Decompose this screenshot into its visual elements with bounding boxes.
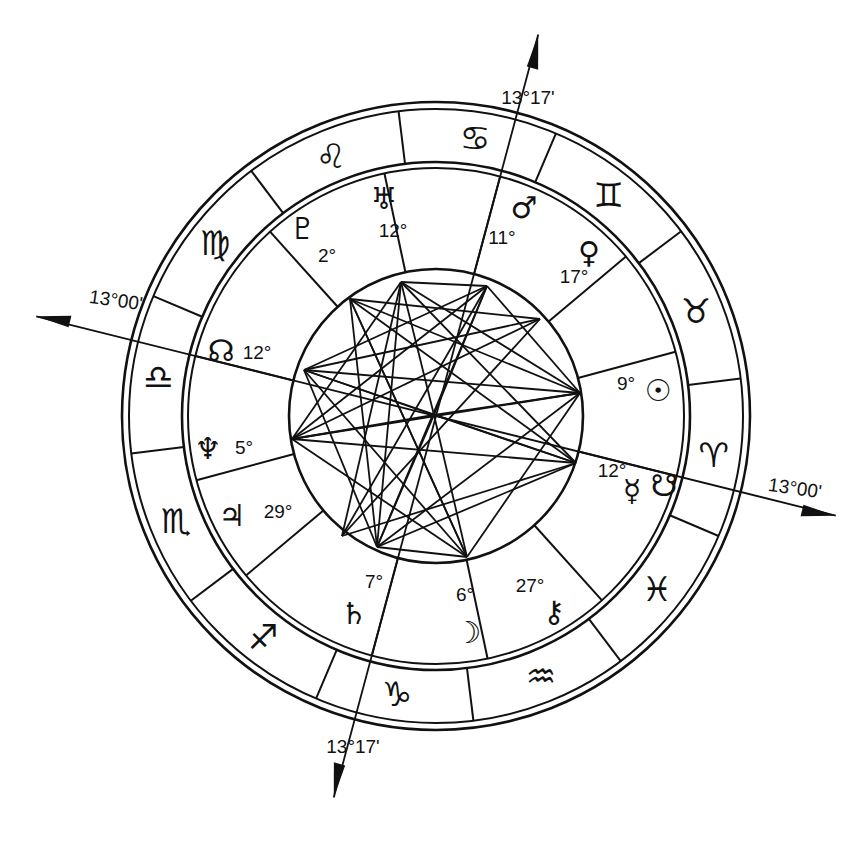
aspect-grid bbox=[292, 282, 580, 557]
sign-divider bbox=[467, 668, 473, 721]
aspect-line bbox=[401, 282, 487, 286]
neptune-degree: 5° bbox=[235, 437, 253, 458]
neptune-icon: ♆ bbox=[195, 431, 222, 466]
aspect-line bbox=[434, 415, 576, 463]
jupiter-icon: ♃ bbox=[219, 498, 246, 533]
sun-icon: ☉ bbox=[645, 373, 672, 408]
sign-divider bbox=[316, 650, 337, 699]
aspect-line bbox=[434, 415, 467, 557]
aspect-line bbox=[350, 299, 576, 463]
imum-coeli-arrow-icon bbox=[334, 762, 345, 797]
pluto-degree: 2° bbox=[318, 245, 336, 266]
moon-degree: 6° bbox=[456, 584, 474, 605]
north-node-degree: 12° bbox=[243, 342, 272, 363]
chart-axes: 13°00'13°00'13°17'13°17' bbox=[36, 34, 836, 797]
jupiter-degree: 29° bbox=[264, 501, 293, 522]
sign-divider bbox=[589, 619, 621, 661]
libra-sign-icon: ♎ bbox=[143, 357, 173, 397]
sun-degree: 9° bbox=[617, 373, 635, 394]
midheaven-label: 13°17' bbox=[501, 87, 555, 108]
uranus-icon: ♅ bbox=[371, 181, 398, 216]
capricorn-sign-icon: ♑ bbox=[382, 674, 412, 714]
descendant-label: 13°00' bbox=[767, 474, 823, 502]
ascendant-arrow-icon bbox=[36, 316, 71, 327]
chiron-degree: 27° bbox=[516, 575, 545, 596]
sign-divider bbox=[688, 379, 741, 385]
aspect-line bbox=[304, 370, 580, 393]
venus-icon: ♀ bbox=[578, 235, 600, 270]
mars-icon: ♂ bbox=[511, 190, 538, 225]
sign-divider bbox=[153, 296, 202, 317]
mars-degree: 11° bbox=[488, 227, 515, 248]
sign-divider bbox=[191, 569, 233, 601]
aspect-line bbox=[487, 286, 580, 393]
sign-divider bbox=[535, 133, 556, 182]
aspect-line bbox=[467, 393, 580, 557]
scorpio-sign-icon: ♏ bbox=[161, 501, 191, 541]
house-cusp-line bbox=[534, 525, 602, 600]
pluto-icon: ♇ bbox=[290, 211, 317, 246]
moon-icon: ☽ bbox=[455, 615, 482, 650]
cancer-sign-icon: ♋ bbox=[460, 118, 490, 158]
venus-degree: 17° bbox=[560, 266, 589, 287]
sign-divider bbox=[639, 231, 681, 263]
virgo-sign-icon: ♍ bbox=[200, 223, 230, 263]
meridian-axis bbox=[334, 34, 538, 797]
aspect-line bbox=[304, 370, 377, 547]
aspect-line bbox=[292, 439, 576, 463]
saturn-icon: ♄ bbox=[341, 596, 368, 631]
natal-chart: ♈♉♊♋♌♍♎♏♐♑♒♓ ☉9°☿12°☋♀17°♂11°♅12°♇2°☊12°… bbox=[0, 0, 860, 843]
chiron-icon: ⚷ bbox=[543, 594, 565, 629]
sign-divider bbox=[670, 515, 719, 536]
aspect-line bbox=[401, 282, 580, 393]
sign-divider bbox=[131, 447, 184, 453]
imum-coeli-label: 13°17' bbox=[326, 736, 380, 757]
descendant-arrow-icon bbox=[801, 505, 836, 516]
taurus-sign-icon: ♉ bbox=[681, 291, 711, 331]
pisces-sign-icon: ♓ bbox=[642, 569, 672, 609]
sign-divider bbox=[399, 111, 405, 164]
sign-divider bbox=[251, 171, 283, 213]
sagittarius-sign-icon: ♐ bbox=[248, 617, 278, 657]
aspect-line bbox=[342, 319, 540, 536]
leo-sign-icon: ♌ bbox=[316, 136, 346, 176]
saturn-degree: 7° bbox=[365, 571, 383, 592]
aries-sign-icon: ♈ bbox=[699, 435, 729, 475]
ascendant-label: 13°00' bbox=[88, 286, 144, 314]
aspect-line bbox=[350, 299, 580, 393]
aspect-line bbox=[350, 299, 540, 319]
gemini-sign-icon: ♊ bbox=[593, 175, 623, 215]
midheaven-arrow-icon bbox=[527, 34, 538, 69]
uranus-degree: 12° bbox=[379, 220, 408, 241]
aquarius-sign-icon: ♒ bbox=[526, 656, 556, 696]
